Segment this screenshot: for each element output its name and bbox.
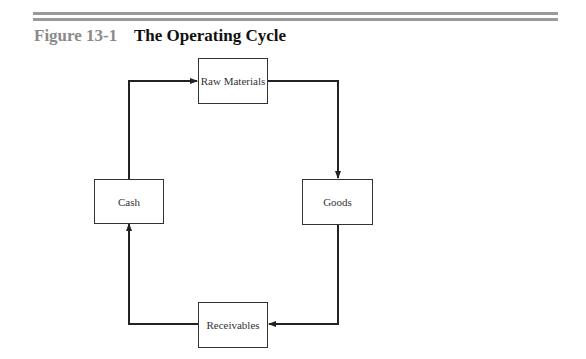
node-label: Receivables	[206, 319, 259, 331]
cycle-connectors	[0, 0, 586, 359]
edge-goods-to-receivables	[269, 224, 338, 324]
edge-raw-to-goods	[268, 81, 338, 178]
edge-receivables-to-cash	[129, 224, 198, 324]
node-label: Goods	[323, 196, 352, 208]
node-cash: Cash	[94, 179, 164, 224]
node-goods: Goods	[302, 179, 373, 225]
node-receivables: Receivables	[198, 302, 268, 348]
node-label: Raw Materials	[201, 75, 265, 87]
node-raw-materials: Raw Materials	[198, 58, 268, 104]
edge-cash-to-raw	[129, 81, 197, 179]
node-label: Cash	[118, 196, 140, 208]
